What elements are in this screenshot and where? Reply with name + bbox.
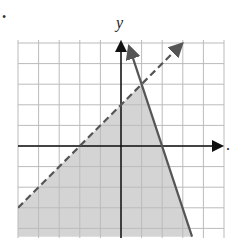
graph [0,0,231,238]
